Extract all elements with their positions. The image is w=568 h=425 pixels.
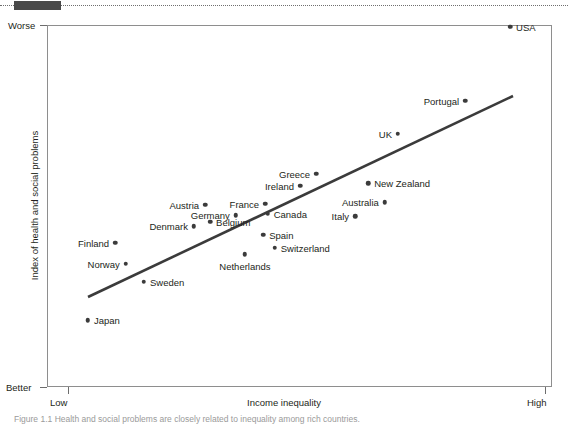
y-axis-label-better: Better bbox=[6, 382, 31, 393]
y-axis-tick-better bbox=[40, 387, 47, 388]
x-axis-tick-low bbox=[68, 387, 69, 394]
dotted-rule bbox=[0, 5, 568, 6]
plot-area-frame bbox=[47, 25, 552, 387]
figure-caption: Figure 1.1 Health and social problems ar… bbox=[14, 414, 554, 425]
x-axis-tick-high bbox=[545, 387, 546, 394]
y-axis-title: Index of health and social problems bbox=[29, 106, 40, 306]
x-axis-title: Income inequality bbox=[0, 397, 568, 408]
y-axis-tick-worse bbox=[40, 25, 47, 26]
y-axis-label-worse: Worse bbox=[8, 20, 35, 31]
top-decoration-band bbox=[0, 0, 568, 13]
dark-tab-marker bbox=[14, 1, 61, 10]
